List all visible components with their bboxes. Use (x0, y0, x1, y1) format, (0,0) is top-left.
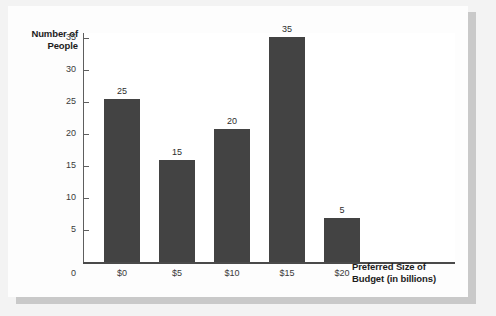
scanned-page-background: Number of People Preferred Size of Budge… (0, 0, 496, 316)
bar-value-label-3: 35 (269, 24, 305, 34)
bar-value-label-2: 20 (214, 116, 250, 126)
x-tick-label-4: $20 (324, 268, 360, 278)
bar-value-label-1: 15 (159, 147, 195, 157)
bar-chart-figure: Number of People Preferred Size of Budge… (8, 6, 468, 297)
y-tick-label: 10 (36, 192, 76, 202)
x-tick-label-3: $15 (269, 268, 305, 278)
bar-value-label-0: 25 (104, 86, 140, 96)
y-tick-mark (83, 198, 89, 199)
bar-1 (159, 160, 195, 262)
bar-3 (269, 37, 305, 262)
y-tick-label: 30 (36, 64, 76, 74)
y-tick-mark (83, 38, 89, 39)
y-tick-mark (83, 102, 89, 103)
x-axis-title-line-2: Budget (in billions) (352, 273, 462, 285)
y-axis-line (83, 33, 84, 263)
x-tick-label-1: $5 (159, 268, 195, 278)
bar-4 (324, 218, 360, 262)
y-tick-label: 5 (36, 224, 76, 234)
y-tick-label: 15 (36, 160, 76, 170)
x-tick-label-0: $0 (104, 268, 140, 278)
y-tick-mark (83, 70, 89, 71)
y-axis-zero-label: 0 (36, 268, 76, 278)
y-tick-mark (83, 230, 89, 231)
y-tick-label: 25 (36, 96, 76, 106)
bar-value-label-4: 5 (324, 205, 360, 215)
y-tick-label: 20 (36, 128, 76, 138)
y-tick-mark (83, 166, 89, 167)
bar-2 (214, 129, 250, 262)
x-tick-label-2: $10 (214, 268, 250, 278)
y-tick-label: 35 (36, 32, 76, 42)
x-axis-title-line-1: Preferred Size of (352, 261, 462, 273)
bar-0 (104, 99, 140, 262)
y-tick-mark (83, 134, 89, 135)
x-axis-title: Preferred Size of Budget (in billions) (352, 261, 462, 285)
